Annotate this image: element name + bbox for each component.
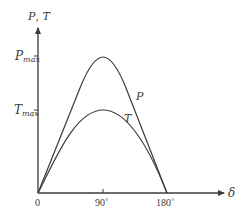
x-axis-label: δ: [228, 186, 235, 200]
t-curve-label: T: [124, 112, 133, 125]
x-tick-0: 0: [35, 197, 40, 208]
x-tick-180: 180˚: [156, 197, 174, 208]
pmax-label: Pmax: [14, 49, 40, 64]
p-curve-label: P: [135, 90, 144, 103]
tmax-label: Tmax: [14, 103, 39, 118]
x-tick-90: 90˚: [95, 197, 108, 208]
y-axis-label: P, T: [27, 10, 51, 23]
power-torque-angle-diagram: P, T Pmax Tmax 0 90˚ 180˚ δ P T: [0, 0, 250, 215]
t-curve: [38, 110, 167, 193]
p-curve: [38, 57, 167, 193]
